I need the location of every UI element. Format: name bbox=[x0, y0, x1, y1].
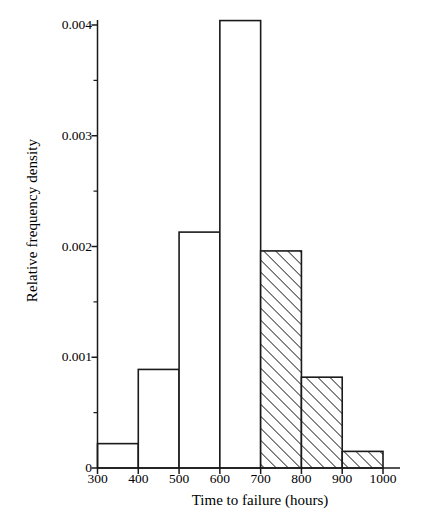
plot-area bbox=[0, 0, 427, 527]
histogram-bar bbox=[342, 451, 383, 468]
y-axis-tick-label: 0.002 bbox=[32, 240, 92, 254]
histogram-bar bbox=[179, 232, 220, 468]
x-axis-title: Time to failure (hours) bbox=[110, 492, 410, 509]
histogram-bar bbox=[301, 377, 342, 468]
histogram-bar bbox=[220, 21, 261, 468]
y-axis-tick-label: 0.001 bbox=[32, 350, 92, 364]
x-axis-tick-label: 1000 bbox=[353, 472, 413, 486]
histogram-bar bbox=[138, 369, 179, 468]
histogram-chart: Relative frequency density Time to failu… bbox=[0, 0, 427, 527]
y-axis-tick-label: 0.004 bbox=[32, 18, 92, 32]
y-axis-tick-label: 0.003 bbox=[32, 129, 92, 143]
histogram-bar bbox=[98, 444, 139, 468]
histogram-bar bbox=[261, 251, 302, 468]
bars-group bbox=[98, 21, 384, 468]
